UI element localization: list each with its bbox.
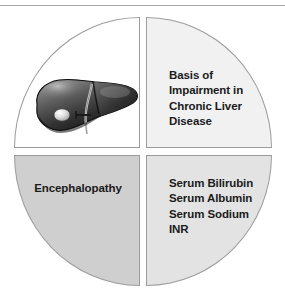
encephalopathy-label: Encephalopathy bbox=[15, 181, 140, 196]
liver-illustration-icon bbox=[29, 70, 140, 142]
quadrant-laboratory-parameters: Serum Bilirubin Serum Albumin Serum Sodi… bbox=[146, 155, 272, 286]
basis-of-impairment-label: Basis of Impairment in Chronic Liver Dis… bbox=[169, 68, 243, 130]
quadrant-liver-image bbox=[14, 17, 140, 148]
four-quadrant-circle-diagram: Basis of Impairment in Chronic Liver Dis… bbox=[14, 17, 272, 286]
quadrant-encephalopathy: Encephalopathy bbox=[14, 155, 140, 286]
laboratory-parameters-label: Serum Bilirubin Serum Albumin Serum Sodi… bbox=[169, 176, 253, 238]
quadrant-basis-of-impairment: Basis of Impairment in Chronic Liver Dis… bbox=[146, 17, 272, 148]
top-divider-rule bbox=[0, 5, 285, 6]
